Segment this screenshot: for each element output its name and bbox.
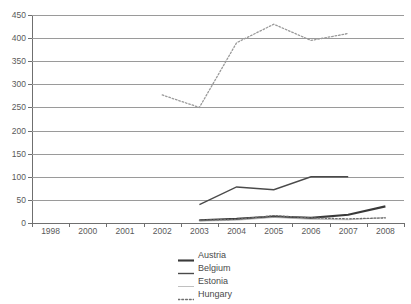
x-tick-mark bbox=[292, 223, 293, 227]
x-tick-mark bbox=[367, 223, 368, 227]
y-tick-label: 350 bbox=[12, 57, 26, 66]
x-tick-mark bbox=[255, 223, 256, 227]
legend-label: Estonia bbox=[198, 277, 228, 286]
legend-item-austria[interactable]: Austria bbox=[178, 250, 232, 261]
series-line-belgium bbox=[199, 177, 348, 205]
x-tick-label: 1998 bbox=[41, 227, 60, 236]
y-tick-label: 0 bbox=[21, 219, 26, 228]
legend-label: Belgium bbox=[198, 264, 231, 273]
x-tick-label: 2005 bbox=[264, 227, 283, 236]
x-tick-label: 2008 bbox=[376, 227, 395, 236]
y-tick-label: 100 bbox=[12, 173, 26, 182]
x-tick-label: 2000 bbox=[78, 227, 97, 236]
y-tick-label: 200 bbox=[12, 126, 26, 135]
series-lines bbox=[32, 15, 404, 223]
x-tick-label: 2006 bbox=[302, 227, 321, 236]
chart-legend: AustriaBelgiumEstoniaHungary bbox=[178, 250, 232, 300]
legend-item-estonia[interactable]: Estonia bbox=[178, 276, 232, 287]
legend-swatch-icon bbox=[178, 290, 194, 299]
plot-area: 050100150200250300350400450 199820002001… bbox=[32, 15, 404, 223]
x-tick-mark bbox=[218, 223, 219, 227]
x-tick-mark bbox=[330, 223, 331, 227]
x-tick-mark bbox=[32, 223, 33, 227]
legend-swatch-icon bbox=[178, 264, 194, 273]
x-tick-mark bbox=[69, 223, 70, 227]
y-tick-label: 450 bbox=[12, 11, 26, 20]
x-tick-label: 2004 bbox=[227, 227, 246, 236]
y-tick-label: 400 bbox=[12, 34, 26, 43]
y-tick-label: 150 bbox=[12, 149, 26, 158]
legend-label: Austria bbox=[198, 251, 226, 260]
x-tick-label: 2007 bbox=[339, 227, 358, 236]
x-tick-mark bbox=[144, 223, 145, 227]
y-tick-label: 50 bbox=[17, 196, 26, 205]
x-tick-label: 2003 bbox=[190, 227, 209, 236]
y-tick-label: 300 bbox=[12, 80, 26, 89]
legend-label: Hungary bbox=[198, 290, 232, 299]
x-tick-label: 2001 bbox=[116, 227, 135, 236]
line-chart: 050100150200250300350400450 199820002001… bbox=[0, 0, 411, 304]
legend-item-hungary[interactable]: Hungary bbox=[178, 289, 232, 300]
legend-swatch-icon bbox=[178, 251, 194, 260]
x-tick-mark bbox=[106, 223, 107, 227]
legend-item-belgium[interactable]: Belgium bbox=[178, 263, 232, 274]
series-line-hungary bbox=[162, 24, 348, 107]
x-tick-mark bbox=[181, 223, 182, 227]
x-tick-mark bbox=[404, 223, 405, 227]
y-tick-label: 250 bbox=[12, 103, 26, 112]
legend-swatch-icon bbox=[178, 277, 194, 286]
x-tick-label: 2002 bbox=[153, 227, 172, 236]
